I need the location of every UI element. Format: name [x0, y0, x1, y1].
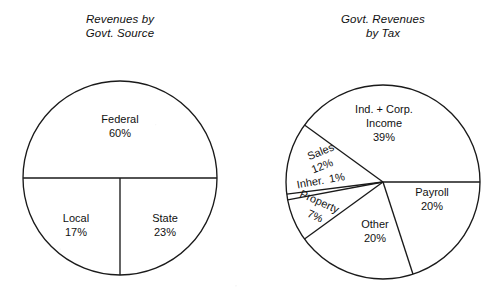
chart2-title-line1: Govt. Revenues [341, 13, 425, 25]
chart1-label-state-value: 23% [154, 226, 176, 238]
chart1-label-state-name: State [152, 212, 178, 224]
chart2-label-payroll-value: 20% [421, 200, 443, 212]
chart1-title-line2: Govt. Source [86, 27, 154, 39]
chart2-label-other-value: 20% [364, 232, 386, 244]
chart2-label-other-name: Other [361, 218, 389, 230]
chart1-label-local-name: Local [63, 212, 89, 224]
chart1-label-local-value: 17% [65, 226, 87, 238]
chart1-label-federal-value: 60% [109, 127, 131, 139]
chart1-label-federal-name: Federal [101, 113, 138, 125]
two-pie-chart-figure: Revenues by Govt. Source Federal 60% Loc… [0, 0, 502, 304]
chart1-title-line1: Revenues by [86, 13, 155, 25]
chart2-label-income-name: Ind. + Corp. [355, 103, 413, 115]
chart2-label-income-name2: Income [366, 117, 402, 129]
pie-chart-govt-revenues-by-tax: Govt. Revenues by Tax Ind. + Corp. Incom… [286, 13, 480, 279]
chart2-label-income-value: 39% [373, 131, 395, 143]
chart2-title-line2: by Tax [366, 27, 401, 39]
pie-chart-revenues-by-govt-source: Revenues by Govt. Source Federal 60% Loc… [23, 13, 217, 275]
chart2-label-payroll-name: Payroll [415, 186, 449, 198]
